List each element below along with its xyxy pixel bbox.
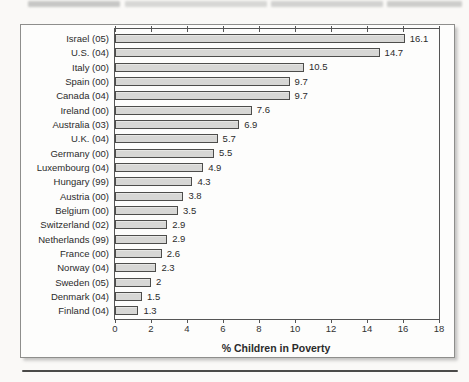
bar <box>115 63 304 72</box>
bar-value-label: 14.7 <box>385 47 404 59</box>
bar <box>115 206 178 215</box>
bar-value-label: 6.9 <box>244 119 257 131</box>
bar <box>115 77 290 86</box>
bar-value-label: 3.5 <box>183 205 196 217</box>
bar-value-label: 4.9 <box>208 162 221 174</box>
plot-area: 024681012141618Israel (05)16.1U.S. (04)1… <box>114 28 440 320</box>
scan-artifact-segment <box>271 1 383 7</box>
x-axis-tick-top <box>187 26 188 32</box>
x-axis-tick-label: 4 <box>172 323 202 335</box>
x-axis-tick-label: 10 <box>280 323 310 335</box>
x-axis-tick-top <box>403 26 404 32</box>
bar-value-label: 16.1 <box>410 33 429 45</box>
bar-value-label: 7.6 <box>257 104 270 116</box>
bar-value-label: 4.3 <box>197 176 210 188</box>
bar-category-label: Norway (04) <box>19 261 109 274</box>
bar-value-label: 9.7 <box>295 76 308 88</box>
x-axis-tick-label: 16 <box>388 323 418 335</box>
bar-category-label: Finland (04) <box>19 304 109 317</box>
bar-category-label: Austria (00) <box>19 190 109 203</box>
x-axis-tick-label: 2 <box>136 323 166 335</box>
bar-category-label: Germany (00) <box>19 147 109 160</box>
bar-value-label: 10.5 <box>309 61 328 73</box>
bar-category-label: Belgium (00) <box>19 204 109 217</box>
bar <box>115 134 218 143</box>
x-axis-tick-top <box>115 26 116 32</box>
x-axis-tick-label: 6 <box>208 323 238 335</box>
bar-value-label: 2.9 <box>172 219 185 231</box>
bar <box>115 220 167 229</box>
bar <box>115 120 239 129</box>
bar-category-label: U.K. (04) <box>19 132 109 145</box>
scan-artifact-top <box>28 1 462 8</box>
bar <box>115 91 290 100</box>
bar <box>115 192 183 201</box>
x-axis-title: % Children in Poverty <box>114 341 438 355</box>
bar <box>115 163 203 172</box>
bar <box>115 106 252 115</box>
bar-value-label: 1.3 <box>143 305 156 317</box>
bar-category-label: Luxembourg (04) <box>19 161 109 174</box>
bar <box>115 235 167 244</box>
bar <box>115 149 214 158</box>
bar-value-label: 9.7 <box>295 90 308 102</box>
x-axis-tick-top <box>259 26 260 32</box>
bar-category-label: Spain (00) <box>19 75 109 88</box>
bar <box>115 292 142 301</box>
bar-value-label: 1.5 <box>147 291 160 303</box>
bar-category-label: Israel (05) <box>19 32 109 45</box>
x-axis-tick-top <box>439 26 440 32</box>
bar-category-label: Denmark (04) <box>19 290 109 303</box>
bar-value-label: 2 <box>156 276 161 288</box>
bar-category-label: Australia (03) <box>19 118 109 131</box>
chart-frame: 024681012141618Israel (05)16.1U.S. (04)1… <box>20 24 455 358</box>
x-axis-tick-label: 18 <box>424 323 454 335</box>
bar <box>115 306 138 315</box>
x-axis-tick-top <box>331 26 332 32</box>
x-axis-tick-top <box>151 26 152 32</box>
bar-category-label: Italy (00) <box>19 61 109 74</box>
scan-artifact-segment <box>28 1 120 7</box>
bar <box>115 34 405 43</box>
bar <box>115 263 156 272</box>
x-axis-tick-top <box>295 26 296 32</box>
bar-value-label: 3.8 <box>188 190 201 202</box>
scan-artifact-segment <box>125 1 267 7</box>
bar-value-label: 5.7 <box>223 133 236 145</box>
bar <box>115 48 380 57</box>
bar-value-label: 2.3 <box>161 262 174 274</box>
x-axis-tick-label: 14 <box>352 323 382 335</box>
horizontal-rule <box>22 370 458 372</box>
bar <box>115 278 151 287</box>
bar-category-label: Sweden (05) <box>19 276 109 289</box>
x-axis-tick-top <box>367 26 368 32</box>
x-axis-tick-label: 0 <box>100 323 130 335</box>
bar-category-label: Canada (04) <box>19 89 109 102</box>
bar-category-label: Switzerland (02) <box>19 218 109 231</box>
bar-category-label: Netherlands (99) <box>19 233 109 246</box>
bar-category-label: Ireland (00) <box>19 104 109 117</box>
x-axis-tick-label: 8 <box>244 323 274 335</box>
bar-category-label: Hungary (99) <box>19 175 109 188</box>
bar-category-label: U.S. (04) <box>19 46 109 59</box>
bar-category-label: France (00) <box>19 247 109 260</box>
bar-value-label: 2.9 <box>172 233 185 245</box>
bar <box>115 249 162 258</box>
scan-artifact-segment <box>387 1 462 7</box>
bar-value-label: 5.5 <box>219 147 232 159</box>
x-axis-tick-label: 12 <box>316 323 346 335</box>
bar-value-label: 2.6 <box>167 248 180 260</box>
bar <box>115 177 192 186</box>
x-axis-tick-top <box>223 26 224 32</box>
